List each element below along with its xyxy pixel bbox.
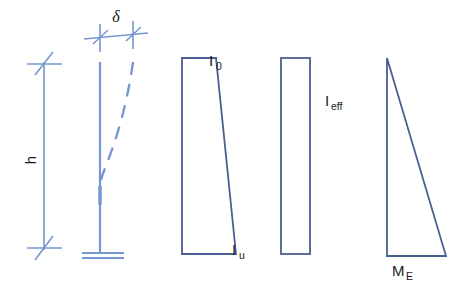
stiffness-top-subscript: 0	[216, 60, 222, 72]
effective-stiffness-label: I	[325, 92, 329, 109]
column-deflected-shape	[100, 62, 133, 186]
diagram-canvas: h δ	[0, 0, 468, 288]
height-label: h	[22, 156, 39, 164]
effective-stiffness-rect	[281, 58, 310, 254]
delta-label: δ	[112, 8, 120, 25]
moment-diagram-label: M	[392, 262, 405, 279]
stiffness-bottom-subscript: u	[239, 249, 245, 261]
height-dimension-group: h	[22, 52, 62, 260]
moment-diagram-group: M E	[387, 58, 446, 282]
stiffness-top-label: I	[209, 52, 213, 69]
stiffness-trapezoid-shape	[182, 58, 236, 254]
effective-stiffness-group: I eff	[281, 58, 343, 254]
deflected-column-group: δ	[82, 8, 148, 258]
moment-diagram-shape	[387, 58, 446, 256]
moment-diagram-subscript: E	[406, 270, 413, 282]
stiffness-bottom-label: I	[232, 241, 236, 258]
effective-stiffness-subscript: eff	[331, 100, 343, 112]
stiffness-trapezoid-group: I 0 I u	[182, 52, 245, 261]
delta-dimension-line	[84, 33, 148, 39]
figure-root: h δ	[0, 0, 468, 288]
